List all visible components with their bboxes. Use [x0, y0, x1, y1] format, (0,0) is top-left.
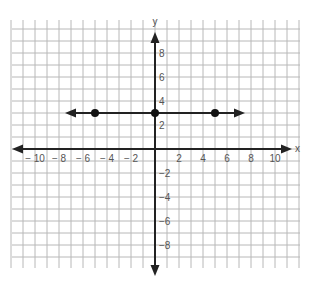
y-axis-down-arrow-icon: [151, 265, 160, 276]
data-series: [65, 109, 245, 118]
x-tick-label: − 6: [76, 153, 91, 164]
data-point: [211, 109, 219, 117]
y-tick-label: 8: [159, 48, 165, 59]
x-tick-label: 8: [248, 153, 254, 164]
x-tick-label: 2: [176, 153, 182, 164]
y-axis-label: y: [153, 16, 158, 27]
y-tick-label: 4: [159, 96, 165, 107]
y-tick-label: −4: [159, 192, 171, 203]
x-axis-left-arrow-icon: [12, 145, 23, 154]
y-tick-label: −8: [159, 240, 171, 251]
x-tick-label: 10: [269, 153, 281, 164]
data-point: [91, 109, 99, 117]
x-axis-label: x: [295, 143, 300, 154]
y-tick-label: 2: [159, 120, 165, 131]
coordinate-plane: − 10− 8− 6− 4− 22468108642−2−4−6−8 x y: [0, 0, 312, 288]
x-tick-label: 4: [200, 153, 206, 164]
y-axis-up-arrow-icon: [151, 32, 160, 43]
y-tick-label: −2: [159, 168, 171, 179]
x-tick-label: − 8: [52, 153, 67, 164]
y-tick-label: 6: [159, 72, 165, 83]
x-tick-label: − 10: [25, 153, 45, 164]
data-point: [151, 109, 159, 117]
x-tick-label: − 2: [124, 153, 139, 164]
y-tick-label: −6: [159, 216, 171, 227]
x-tick-label: − 4: [100, 153, 115, 164]
x-tick-label: 6: [224, 153, 230, 164]
